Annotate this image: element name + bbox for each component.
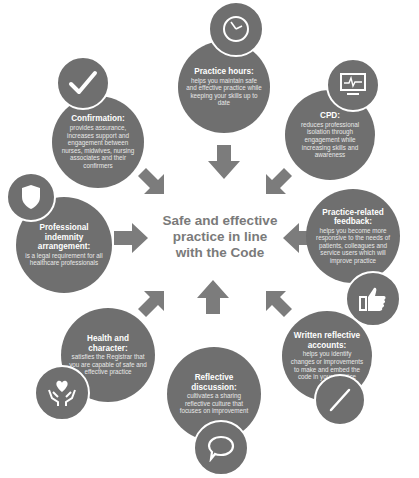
center-line-2: practice in line — [140, 229, 300, 245]
shield-icon — [6, 172, 56, 222]
monitor-icon — [326, 58, 380, 112]
node-title: Health and character: — [69, 334, 147, 353]
node-body: helps you maintain safe and effective pr… — [186, 77, 262, 107]
node-title: Professional indemnity arrangement: — [24, 223, 104, 252]
node-practice-hours: Practice hours: helps you maintain safe … — [178, 41, 270, 133]
node-practice-related-feedback: Practice-related feedback: helps you bec… — [306, 189, 400, 283]
node-body: helps you become more responsive to the … — [314, 227, 392, 265]
center-line-3: with the Code — [140, 245, 300, 261]
arrow-up-right-icon — [138, 287, 168, 317]
arrow-down-left-icon — [262, 168, 292, 198]
checkmark-icon — [56, 56, 110, 110]
arrow-down-right-icon — [138, 168, 168, 198]
arrow-up-left-icon — [262, 287, 292, 317]
arrow-up-icon — [197, 280, 229, 314]
node-title: Written reflective accounts: — [290, 331, 364, 350]
center-line-1: Safe and effective — [140, 213, 300, 229]
node-title: Confirmation: — [71, 114, 125, 124]
arrow-right-icon — [114, 223, 148, 253]
node-title: CPD: — [320, 111, 340, 121]
heart-hands-icon — [34, 365, 90, 421]
node-body: reduces professional isolation through e… — [293, 121, 367, 159]
arrow-down-icon — [208, 145, 240, 179]
node-body: provides assurance, increases support an… — [60, 124, 136, 170]
node-title: Practice hours: — [194, 67, 254, 77]
node-confirmation: Confirmation: provides assurance, increa… — [52, 96, 144, 188]
node-body: cultivates a sharing reflective culture … — [175, 392, 253, 415]
central-goal-text: Safe and effective practice in line with… — [140, 213, 300, 261]
clock-icon — [208, 1, 264, 57]
node-body: is a legal requirement for all healthcar… — [24, 252, 104, 267]
node-title: Practice-related feedback: — [314, 208, 392, 227]
pen-icon — [314, 374, 366, 426]
speech-bubble-icon — [193, 420, 249, 476]
node-title: Reflective discussion: — [175, 373, 253, 392]
